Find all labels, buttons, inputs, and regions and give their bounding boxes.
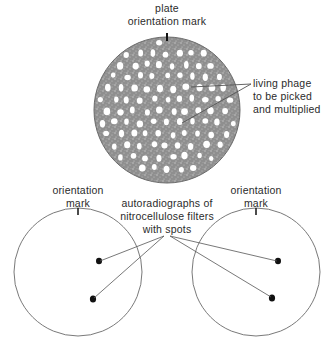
plate-label-line1: plate [117,2,217,15]
phage-callout-line2: to be picked [253,90,312,103]
autoradiograph-label-line2: nitrocellulose filters [102,210,232,223]
right-filter-label-line2: mark [216,197,296,210]
spot-leader-lines [94,236,277,298]
left-spot-1 [96,258,102,265]
right-filter-label-line1: orientation [216,184,296,197]
autoradiograph-label-line1: autoradiographs of [107,197,227,210]
diagram-canvas [0,0,335,351]
left-filter-label-line1: orientation [38,184,118,197]
phage-callout-line3: and multiplied [253,103,321,116]
left-filter-label-line2: mark [38,197,118,210]
plate-label-line2: orientation mark [107,15,227,28]
top-plate [94,33,240,183]
phage-callout-line1: living phage [253,77,311,90]
right-spot-2 [269,294,275,301]
autoradiograph-label-line3: with spots [117,223,217,236]
